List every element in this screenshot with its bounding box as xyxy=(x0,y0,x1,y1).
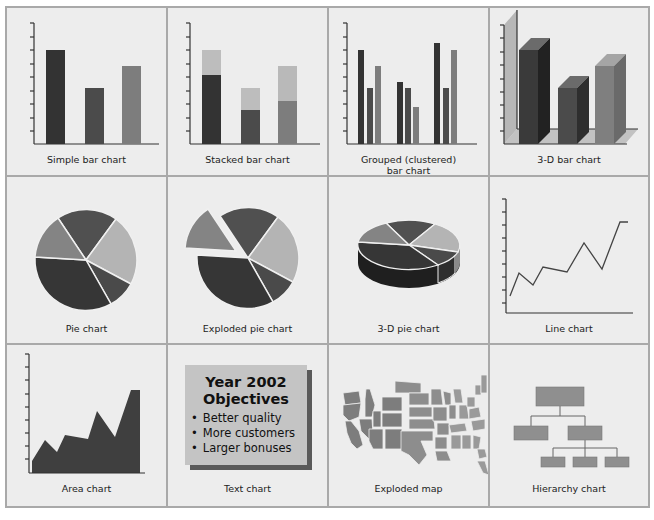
3d-pie-chart-graphic xyxy=(329,177,488,343)
title-line-1: Year 2002 xyxy=(205,374,286,390)
cell-3d-pie-chart: 3-D pie chart xyxy=(329,177,488,343)
caption: Exploded pie chart xyxy=(168,323,327,334)
caption: Line chart xyxy=(490,323,648,334)
cell-exploded-pie-chart: Exploded pie chart xyxy=(168,177,327,343)
org-box-top xyxy=(536,387,584,406)
caption-line-1: Grouped (clustered) xyxy=(361,154,456,165)
caption: Grouped (clustered) bar chart xyxy=(329,154,488,175)
org-box-level2-left xyxy=(514,426,548,440)
cell-text-chart: Year 2002 Objectives Better quality More… xyxy=(168,345,327,506)
cell-hierarchy-chart: Hierarchy chart xyxy=(490,345,648,506)
east-region xyxy=(449,375,488,475)
stacked-bar-chart-graphic xyxy=(168,8,327,175)
caption: Stacked bar chart xyxy=(168,154,327,165)
chart-types-grid: Simple bar chart Stacked bar chart xyxy=(5,6,650,508)
area-chart-graphic xyxy=(7,345,166,506)
pie-chart-graphic xyxy=(7,177,166,343)
caption: 3-D pie chart xyxy=(329,323,488,334)
cell-pie-chart: Pie chart xyxy=(7,177,166,343)
caption-line-2: bar chart xyxy=(387,165,430,175)
hierarchy-chart-graphic xyxy=(490,345,648,506)
bullet-item: Better quality xyxy=(191,411,307,426)
grouped-bar-chart-graphic xyxy=(329,8,488,175)
org-box-level3 xyxy=(573,457,597,467)
3d-bar-chart-graphic xyxy=(490,8,648,175)
cell-grouped-bar-chart: Grouped (clustered) bar chart xyxy=(329,8,488,175)
cell-exploded-map: Exploded map xyxy=(329,345,488,506)
text-chart-bullets: Better quality More customers Larger bon… xyxy=(191,411,307,456)
simple-bar-chart-graphic xyxy=(7,8,166,175)
text-chart-title: Year 2002 Objectives xyxy=(185,374,307,408)
cell-3d-bar-chart: 3-D bar chart xyxy=(490,8,648,175)
org-box-level2-right xyxy=(568,426,602,440)
org-box-level3 xyxy=(605,457,629,467)
caption: Simple bar chart xyxy=(7,154,166,165)
caption: Area chart xyxy=(7,483,166,494)
line-chart-graphic xyxy=(490,177,648,343)
central-region xyxy=(395,381,456,465)
caption: Exploded map xyxy=(329,483,488,494)
caption: 3-D bar chart xyxy=(490,154,648,165)
title-line-2: Objectives xyxy=(203,391,289,407)
cell-line-chart: Line chart xyxy=(490,177,648,343)
caption: Text chart xyxy=(168,483,327,494)
bullet-item: Larger bonuses xyxy=(191,441,307,456)
cell-area-chart: Area chart xyxy=(7,345,166,506)
exploded-pie-chart-graphic xyxy=(168,177,327,343)
cell-stacked-bar-chart: Stacked bar chart xyxy=(168,8,327,175)
org-box-level3 xyxy=(541,457,565,467)
west-region xyxy=(343,389,402,449)
cell-simple-bar-chart: Simple bar chart xyxy=(7,8,166,175)
exploded-us-map-graphic xyxy=(329,345,488,506)
caption: Pie chart xyxy=(7,323,166,334)
text-chart-slide: Year 2002 Objectives Better quality More… xyxy=(185,365,307,465)
caption: Hierarchy chart xyxy=(490,483,648,494)
bullet-item: More customers xyxy=(191,426,307,441)
